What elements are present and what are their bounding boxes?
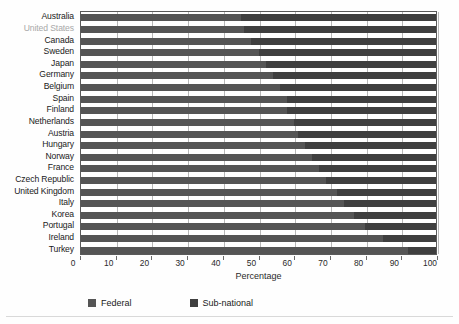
bar-segment-federal: [81, 142, 305, 149]
x-axis-tick-label: 100: [423, 258, 437, 268]
x-axis-tick-label: 0: [71, 258, 76, 268]
bar-segment-subnational: [298, 131, 436, 138]
bar-row: [81, 38, 436, 45]
bar-segment-federal: [81, 14, 241, 21]
x-axis-title: Percentage: [80, 271, 437, 281]
legend-item-federal: Federal: [88, 298, 132, 308]
y-axis-labels: AustraliaUnited StatesCanadaSwedenJapanG…: [0, 11, 77, 255]
bar-segment-subnational: [273, 72, 436, 79]
x-axis-tick-mark: [330, 256, 331, 260]
y-axis-label: Czech Republic: [15, 175, 74, 184]
x-axis-tick-mark: [116, 256, 117, 260]
bar-row: [81, 131, 436, 138]
x-axis-tick-mark: [151, 256, 152, 260]
bar-row: [81, 14, 436, 21]
y-axis-label: Japan: [51, 59, 74, 68]
bar-row: [81, 247, 436, 254]
y-axis-label: Belgium: [44, 82, 74, 91]
bar-row: [81, 177, 436, 184]
bar-segment-subnational: [337, 189, 436, 196]
y-axis-label: Norway: [45, 152, 74, 161]
y-axis-label: United States: [24, 24, 74, 33]
bar-segment-federal: [81, 223, 365, 230]
bar-segment-subnational: [294, 119, 436, 126]
bar-segment-subnational: [259, 49, 437, 56]
y-axis-label: Germany: [39, 70, 74, 79]
bar-segment-federal: [81, 38, 251, 45]
x-axis-tick-label: 40: [211, 258, 220, 268]
bar-row: [81, 49, 436, 56]
bar-row: [81, 107, 436, 114]
bar-segment-federal: [81, 212, 354, 219]
y-axis-label: United Kingdom: [14, 187, 74, 196]
bar-row: [81, 235, 436, 242]
bar-segment-federal: [81, 235, 383, 242]
bar-segment-federal: [81, 154, 312, 161]
legend-label-subnational: Sub-national: [203, 298, 254, 308]
bar-segment-federal: [81, 72, 273, 79]
bar-segment-subnational: [344, 200, 436, 207]
y-axis-label: Finland: [47, 105, 75, 114]
bar-segment-subnational: [241, 14, 436, 21]
x-axis-tick-mark: [187, 256, 188, 260]
bar-row: [81, 165, 436, 172]
bar-segment-federal: [81, 61, 266, 68]
x-axis-tick-mark: [401, 256, 402, 260]
bar-segment-subnational: [326, 177, 436, 184]
x-axis-tick-mark: [80, 256, 81, 260]
y-axis-label: Korea: [52, 210, 74, 219]
bar-segment-subnational: [287, 96, 436, 103]
x-axis-tick-label: 70: [318, 258, 327, 268]
plot-area: [80, 11, 437, 255]
plot-wrapper: [80, 11, 437, 255]
x-axis-tick-label: 10: [104, 258, 113, 268]
bar-segment-federal: [81, 119, 294, 126]
bar-segment-federal: [81, 247, 408, 254]
x-axis-tick-mark: [366, 256, 367, 260]
bar-segment-federal: [81, 200, 344, 207]
x-axis-tick-mark: [437, 256, 438, 260]
bar-row: [81, 72, 436, 79]
bar-row: [81, 119, 436, 126]
x-axis-ticks: 0102030405060708090100: [80, 256, 437, 270]
y-axis-label: Australia: [41, 12, 74, 21]
y-axis-label: France: [48, 163, 74, 172]
x-axis-tick-label: 60: [283, 258, 292, 268]
x-axis-tick-mark: [259, 256, 260, 260]
bar-series-container: [81, 12, 436, 254]
y-axis-label: Ireland: [48, 233, 74, 242]
bar-row: [81, 223, 436, 230]
bar-row: [81, 200, 436, 207]
x-axis-tick-label: 90: [390, 258, 399, 268]
bar-segment-federal: [81, 26, 244, 33]
bar-row: [81, 26, 436, 33]
bar-row: [81, 189, 436, 196]
x-axis-tick-mark: [294, 256, 295, 260]
bar-segment-subnational: [354, 212, 436, 219]
legend-swatch-subnational-icon: [190, 299, 198, 307]
bar-segment-federal: [81, 96, 287, 103]
bar-segment-federal: [81, 84, 280, 91]
gridline: [438, 12, 439, 254]
bar-row: [81, 84, 436, 91]
bar-segment-federal: [81, 189, 337, 196]
legend-item-subnational: Sub-national: [190, 298, 254, 308]
bar-segment-federal: [81, 177, 326, 184]
bar-row: [81, 142, 436, 149]
bar-segment-federal: [81, 131, 298, 138]
bar-row: [81, 96, 436, 103]
bar-segment-federal: [81, 107, 287, 114]
bar-segment-subnational: [365, 223, 436, 230]
x-axis-tick-mark: [223, 256, 224, 260]
legend-swatch-federal-icon: [88, 299, 96, 307]
bar-row: [81, 212, 436, 219]
y-axis-label: Canada: [44, 36, 74, 45]
bar-segment-subnational: [319, 165, 436, 172]
bar-segment-subnational: [280, 84, 436, 91]
bar-segment-federal: [81, 165, 319, 172]
chart-figure: AustraliaUnited StatesCanadaSwedenJapanG…: [0, 0, 459, 324]
x-axis-tick-label: 80: [354, 258, 363, 268]
x-axis-tick-label: 50: [247, 258, 256, 268]
y-axis-label: Austria: [48, 129, 74, 138]
legend-label-federal: Federal: [101, 298, 132, 308]
